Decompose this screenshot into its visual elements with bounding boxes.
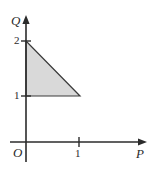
coordinate-plot: [0, 0, 153, 170]
p-axis-arrowhead: [138, 138, 147, 145]
q-tick-label-2: 2: [14, 35, 20, 46]
q-axis-arrowhead: [22, 15, 29, 24]
p-axis-label: P: [136, 147, 144, 160]
q-tick-label-1: 1: [14, 90, 20, 101]
figure-canvas: Q P O 2 1 1: [0, 0, 153, 170]
p-tick-label-1: 1: [75, 148, 81, 159]
q-axis-label: Q: [11, 14, 20, 27]
shaded-triangle-region: [26, 41, 80, 96]
origin-label: O: [13, 146, 22, 159]
